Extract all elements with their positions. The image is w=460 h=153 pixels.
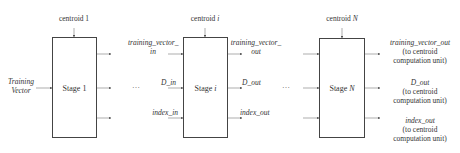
final-output-note2: computation unit)	[380, 134, 460, 143]
stage-1-box: Stage 1	[52, 37, 97, 138]
d-out-label: D_out	[242, 78, 261, 87]
centroid-1-label: centroid 1	[44, 14, 104, 23]
final-output-note1: (to centroid	[380, 87, 460, 96]
index-out-label: index_out	[240, 108, 270, 117]
final-output-name: training_vector_out	[380, 38, 460, 47]
final-output-note1: (to centroid	[380, 125, 460, 134]
stage-i-box: Stage i	[183, 37, 228, 138]
stage-index: 1	[82, 83, 86, 92]
stage-i-label: Stage i	[184, 83, 227, 92]
final-output-note2: computation unit)	[380, 96, 460, 105]
final-output-note2: computation unit)	[380, 56, 460, 65]
input-label-line1: Training	[4, 77, 38, 86]
final-output-name: D_out	[380, 78, 460, 87]
centroid-prefix: centroid	[326, 14, 352, 23]
training-vector-in-label: training_vector_ in	[128, 38, 178, 56]
training-vector-out-label: training_vector_ out	[228, 38, 284, 56]
tv-out-line1: training_vector_	[228, 38, 284, 47]
stage-1-label: Stage 1	[53, 83, 96, 92]
ellipsis-right: …	[282, 81, 290, 90]
stage-prefix: Stage	[329, 84, 349, 93]
stage-n-box: Stage N	[319, 38, 365, 138]
training-vector-input-label: Training Vector	[4, 77, 38, 95]
tv-in-line1: training_vector_	[128, 38, 178, 47]
d-in-label: D_in	[140, 78, 176, 87]
centroid-i-label: centroid i	[175, 14, 235, 23]
centroid-index: N	[353, 14, 358, 23]
final-output-name: index_out	[380, 116, 460, 125]
final-output-training-vector: training_vector_out (to centroid computa…	[380, 38, 460, 65]
stage-n-label: Stage N	[320, 84, 364, 93]
centroid-index: i	[217, 14, 219, 23]
centroid-prefix: centroid	[59, 14, 85, 23]
final-output-index: index_out (to centroid computation unit)	[380, 116, 460, 143]
tv-in-line2: in	[128, 47, 178, 56]
stage-prefix: Stage	[194, 83, 214, 92]
centroid-n-label: centroid N	[312, 14, 372, 23]
stage-index: N	[349, 84, 354, 93]
index-in-label: index_in	[138, 108, 178, 117]
ellipsis-left: …	[132, 81, 140, 90]
centroid-prefix: centroid	[191, 14, 217, 23]
final-output-note1: (to centroid	[380, 47, 460, 56]
centroid-index: 1	[85, 14, 89, 23]
tv-out-line2: out	[228, 47, 284, 56]
pipeline-diagram: Training Vector centroid 1 centroid i ce…	[0, 0, 460, 153]
stage-index: i	[214, 83, 216, 92]
input-label-line2: Vector	[4, 86, 38, 95]
final-output-d: D_out (to centroid computation unit)	[380, 78, 460, 105]
stage-prefix: Stage	[63, 83, 83, 92]
